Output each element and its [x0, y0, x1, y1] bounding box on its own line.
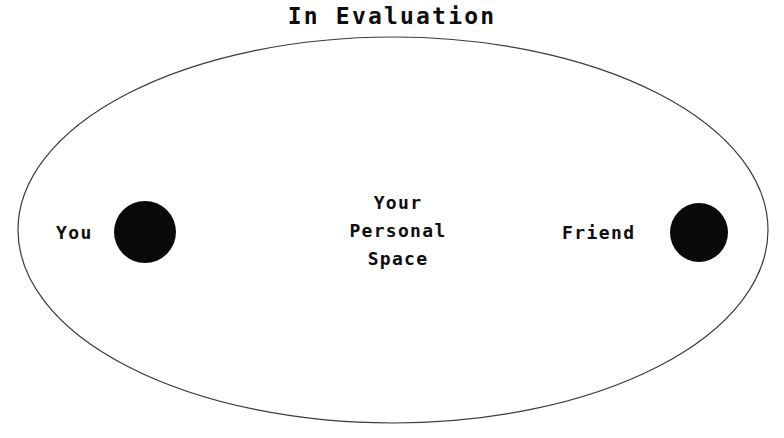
you-label: You: [56, 222, 93, 243]
center-annotation-line-2: Personal: [298, 217, 498, 245]
center-annotation-line-1: Your: [298, 189, 498, 217]
center-annotation-line-3: Space: [298, 245, 498, 273]
friend-marker-icon: [670, 203, 728, 262]
you-marker-icon: [114, 201, 176, 263]
diagram-canvas: In Evaluation You Friend Your Personal S…: [0, 0, 784, 438]
center-annotation: Your Personal Space: [298, 189, 498, 273]
friend-label: Friend: [562, 222, 635, 243]
